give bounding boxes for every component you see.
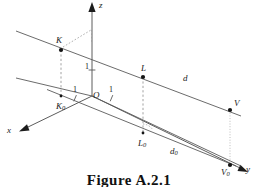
x-axis-arrowhead [19,124,30,131]
point-label-k: K [56,36,62,45]
point-dot-v [228,108,232,112]
geometry-diagram [0,0,258,187]
point-label-k0-sub: 0 [62,104,65,111]
x-axis-label: x [7,126,11,135]
point-dot-l0 [142,132,145,135]
origin-label: O [93,91,100,100]
y-unit-tick-label: 1 [109,86,113,94]
distance-label-d0-sub: 0 [175,149,178,156]
point-label-l0-sub: 0 [143,141,146,148]
figure-container: z x y O 1 1 1 K K0 L L0 V V0 d d0 Figure… [0,0,258,187]
point-dot-k0 [60,95,63,98]
point-label-l: L [141,64,146,73]
base-parallel-line [16,78,92,96]
point-label-k0: K0 [56,102,65,112]
projected-line-d0 [47,90,236,167]
point-label-v: V [234,99,240,108]
distance-label-d0: d0 [170,147,178,157]
z-axis-arrowhead [88,2,95,12]
base-lower-line [92,96,241,166]
dotted-connector-k-to-z [63,30,91,47]
z-unit-tick-label: 1 [85,63,89,71]
z-axis-label: z [99,1,103,10]
figure-caption: Figure A.2.1 [0,172,258,187]
upper-slant-line [16,31,241,116]
point-dot-v0 [228,163,232,167]
point-dot-k [59,48,63,52]
point-label-l0: L0 [138,139,146,149]
point-dot-l [141,75,145,79]
x-unit-tick-label: 1 [73,86,77,94]
y-unit-tick [110,95,113,101]
distance-label-d: d [183,74,188,83]
